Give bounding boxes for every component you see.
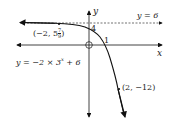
x-axis-label: x — [157, 49, 162, 58]
point-2-label: (2, −12) — [122, 84, 155, 92]
y-intercept-label: 4 — [91, 25, 96, 33]
y-axis-label: y — [93, 7, 98, 16]
x-intercept-label: 1 — [104, 37, 109, 45]
point-2 — [118, 88, 120, 90]
point-neg2 — [58, 23, 60, 25]
point-neg2-label: (−2, 579) — [33, 28, 64, 39]
equation-label: y = −2 × 3x + 6 — [16, 57, 81, 67]
asymptote-label: y = 6 — [137, 12, 158, 20]
